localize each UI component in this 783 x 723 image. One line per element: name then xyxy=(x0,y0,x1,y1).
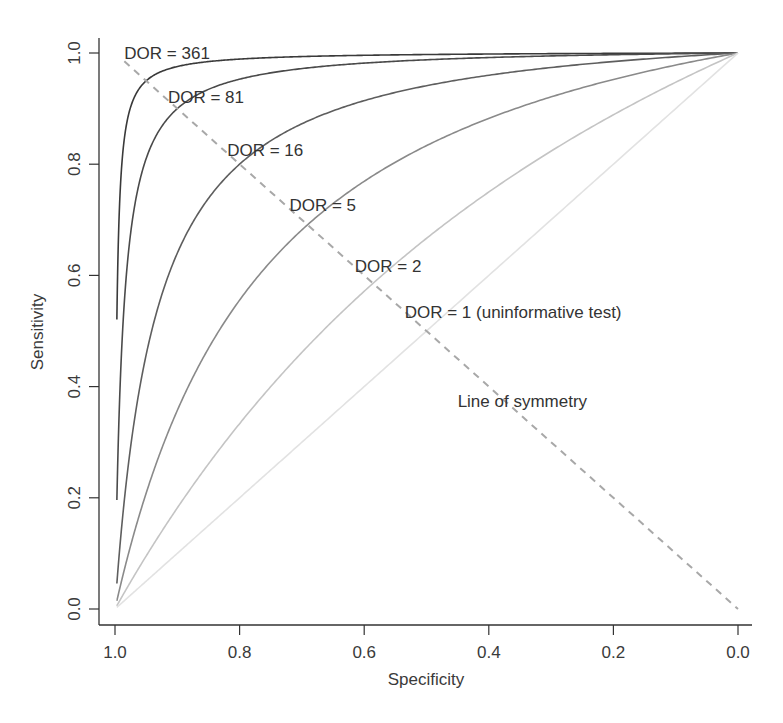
y-tick-label: 0.8 xyxy=(65,152,84,176)
curve-label-dor-16: DOR = 16 xyxy=(227,141,303,160)
y-tick-label: 1.0 xyxy=(65,41,84,65)
y-axis-title: Sensitivity xyxy=(28,293,47,370)
roc-curves xyxy=(117,53,738,607)
x-tick-label: 0.8 xyxy=(228,643,252,662)
y-tick-label: 0.2 xyxy=(65,486,84,510)
curve-label-dor-81: DOR = 81 xyxy=(168,88,244,107)
curve-label-dor-361: DOR = 361 xyxy=(124,44,210,63)
x-axis-title: Specificity xyxy=(388,670,465,689)
annotations: Line of symmetry xyxy=(458,392,588,411)
y-axis-ticks: 0.00.20.40.60.81.0 xyxy=(65,41,99,621)
y-tick-label: 0.4 xyxy=(65,375,84,399)
curve-label-dor-5: DOR = 5 xyxy=(289,196,356,215)
x-tick-label: 1.0 xyxy=(103,643,127,662)
roc-curve-dor-81 xyxy=(117,53,738,500)
roc-chart: 1.00.80.60.40.20.0 0.00.20.40.60.81.0 Sp… xyxy=(0,0,783,723)
curve-label-dor-1: DOR = 1 (uninformative test) xyxy=(405,303,622,322)
x-tick-label: 0.6 xyxy=(352,643,376,662)
y-tick-label: 0.6 xyxy=(65,264,84,288)
roc-curve-dor-1 xyxy=(117,53,738,607)
curve-label-dor-2: DOR = 2 xyxy=(355,257,422,276)
curve-labels: DOR = 361DOR = 81DOR = 16DOR = 5DOR = 2D… xyxy=(124,44,621,322)
x-axis-ticks: 1.00.80.60.40.20.0 xyxy=(103,625,750,662)
annotation-line-of-symmetry: Line of symmetry xyxy=(458,392,588,411)
x-tick-label: 0.4 xyxy=(477,643,501,662)
x-tick-label: 0.2 xyxy=(602,643,626,662)
y-tick-label: 0.0 xyxy=(65,597,84,621)
x-tick-label: 0.0 xyxy=(726,643,750,662)
